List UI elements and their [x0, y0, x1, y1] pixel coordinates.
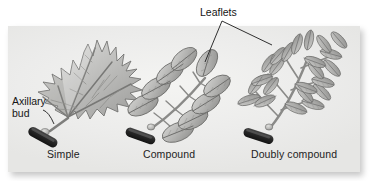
leaf-types-figure: Leaflets Axillary bud Simple Compound Do…: [0, 0, 374, 181]
axillary-bud-label-line1: Axillary: [12, 96, 46, 108]
caption-simple: Simple: [47, 148, 80, 160]
axillary-bud-label-line2: bud: [12, 108, 46, 120]
axillary-bud-label: Axillary bud: [12, 96, 46, 119]
caption-doubly-compound: Doubly compound: [251, 148, 337, 160]
caption-compound: Compound: [143, 148, 195, 160]
leaflets-label: Leaflets: [200, 6, 237, 18]
